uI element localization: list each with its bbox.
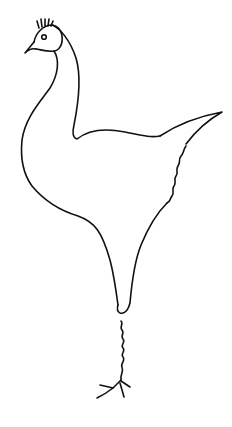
leg xyxy=(121,321,124,380)
neck-front xyxy=(21,51,118,305)
body xyxy=(117,203,167,313)
eye xyxy=(42,35,47,40)
foot xyxy=(97,380,130,398)
neck-back xyxy=(52,25,160,139)
tail xyxy=(160,112,222,144)
beak xyxy=(25,42,36,53)
bird-drawing xyxy=(0,0,232,427)
back-feathers xyxy=(167,146,186,203)
